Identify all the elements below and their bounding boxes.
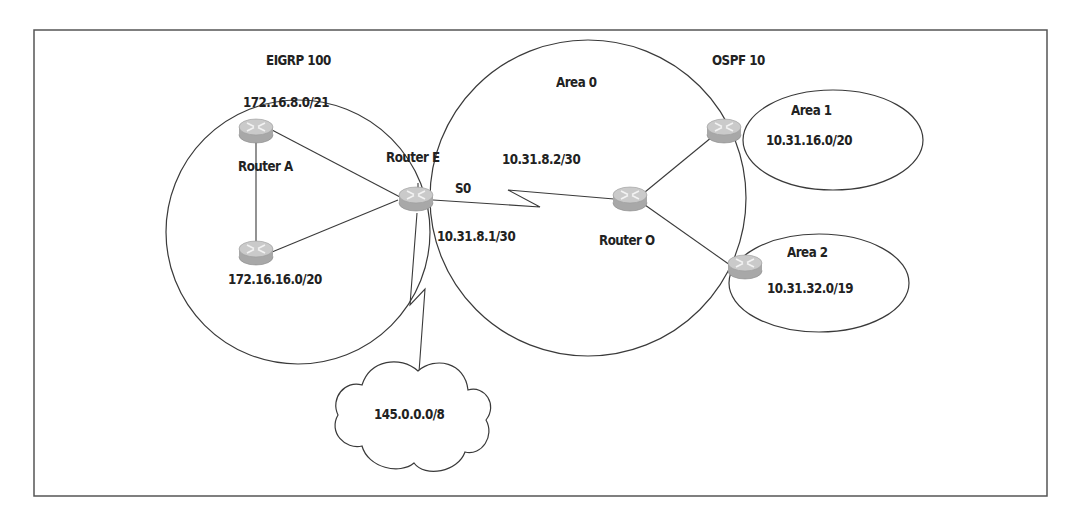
area2-label: Area 2 xyxy=(787,245,828,260)
router-e-icon[interactable] xyxy=(399,187,433,211)
eigrp-domain-boundary xyxy=(166,100,430,364)
link-routerO-area2 xyxy=(645,205,730,265)
cloud-subnet-label: 145.0.0.0/8 xyxy=(374,407,444,422)
ospf-label: OSPF 10 xyxy=(712,53,765,68)
eigrp-top-subnet-label: 172.16.8.0/21 xyxy=(243,95,329,110)
router-area2-icon[interactable] xyxy=(728,255,762,279)
eigrp-label: EIGRP 100 xyxy=(266,53,331,68)
serial-link-E-cloud xyxy=(410,213,425,386)
area1-label: Area 1 xyxy=(791,103,832,118)
router-e-label: Router E xyxy=(386,150,440,165)
router-e-interface-label: S0 xyxy=(455,181,471,196)
diagram-frame xyxy=(34,30,1047,496)
link-routerB-routerE xyxy=(272,200,398,252)
router-o-icon[interactable] xyxy=(613,187,647,211)
router-o-label: Router O xyxy=(599,233,655,248)
router-a-icon[interactable] xyxy=(239,119,273,143)
diagram-canvas xyxy=(0,0,1077,520)
router-a-label: Router A xyxy=(238,159,293,174)
area2-subnet-label: 10.31.32.0/19 xyxy=(767,281,853,296)
serial-e-ip-label: 10.31.8.1/30 xyxy=(437,229,515,244)
area1-subnet-label: 10.31.16.0/20 xyxy=(766,133,852,148)
eigrp-bottom-subnet-label: 172.16.16.0/20 xyxy=(228,272,322,287)
router-area1-icon[interactable] xyxy=(707,119,741,143)
serial-o-ip-label: 10.31.8.2/30 xyxy=(502,152,580,167)
link-routerO-area1 xyxy=(645,137,712,192)
router-b-icon[interactable] xyxy=(239,241,273,265)
network-diagram: EIGRP 100 172.16.8.0/21 Router A 172.16.… xyxy=(0,0,1077,520)
area0-label: Area 0 xyxy=(556,75,597,90)
